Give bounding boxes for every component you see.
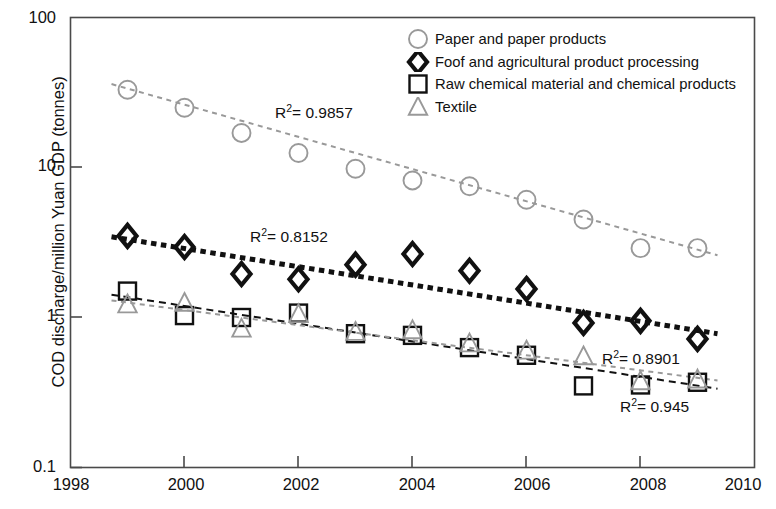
data-point: [347, 160, 365, 178]
r2-label-paper: R2= 0.9857: [275, 102, 353, 122]
data-point: [403, 243, 421, 265]
data-point: [176, 99, 194, 117]
r2-value-paper: = 0.9857: [292, 104, 353, 121]
r2-label-textile: R2= 0.8901: [602, 348, 680, 368]
data-point: [404, 171, 422, 189]
square-marker-icon: [406, 74, 432, 94]
data-point: [290, 305, 307, 322]
legend-item: Raw chemical material and chemical produ…: [406, 73, 736, 96]
data-point: [461, 177, 479, 195]
r2-label-food: R2= 0.8152: [250, 226, 328, 246]
legend-item-label: Textile: [435, 99, 477, 115]
r2-label-chemical: R2= 0.945: [620, 396, 689, 416]
r2-value-food: = 0.8152: [267, 228, 328, 245]
data-point: [289, 268, 307, 290]
data-point: [289, 304, 307, 322]
data-point: [403, 320, 421, 338]
data-point: [517, 278, 535, 300]
chart-legend: Paper and paper productsFoof and agricul…: [406, 28, 736, 118]
data-point: [232, 319, 250, 337]
legend-item: Foof and agricultural product processing: [406, 51, 736, 74]
legend-item: Paper and paper products: [406, 28, 736, 51]
chart-root: COD discharge/million Yuan GDP (tonnes) …: [0, 0, 776, 509]
legend-item-label: Foof and agricultural product processing: [435, 54, 699, 70]
triangle-marker-icon: [406, 97, 432, 117]
r2-r-char: R: [275, 104, 286, 121]
data-point: [290, 144, 308, 162]
circle-marker-icon: [406, 29, 432, 49]
r2-r-char: R: [602, 350, 613, 367]
data-point: [632, 239, 650, 257]
legend-item-label: Raw chemical material and chemical produ…: [435, 76, 736, 92]
r2-value-chemical: = 0.945: [637, 398, 689, 415]
data-point: [518, 191, 536, 209]
data-point: [118, 225, 136, 247]
data-point: [631, 310, 649, 332]
data-point: [233, 124, 251, 142]
data-point: [460, 260, 478, 282]
r2-r-char: R: [250, 228, 261, 245]
diamond-marker-icon: [406, 52, 432, 72]
data-point: [631, 371, 649, 389]
legend-item: Textile: [406, 96, 736, 119]
data-point: [232, 263, 250, 285]
legend-item-label: Paper and paper products: [435, 31, 606, 47]
data-point: [688, 328, 706, 350]
data-point: [575, 377, 592, 394]
r2-r-char: R: [620, 398, 631, 415]
r2-value-textile: = 0.8901: [619, 350, 680, 367]
